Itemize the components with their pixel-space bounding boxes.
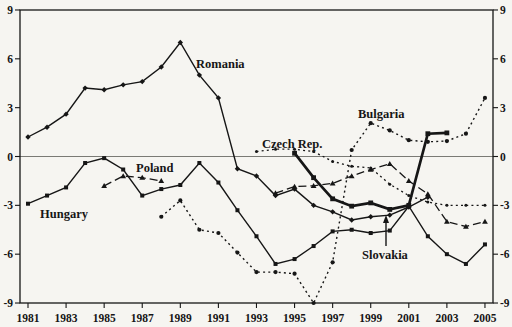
marker-square xyxy=(140,194,144,198)
marker-dot xyxy=(483,96,487,100)
marker-dot xyxy=(254,270,258,274)
marker-square xyxy=(311,175,316,180)
x-axis-tick-label: 2005 xyxy=(473,312,496,324)
marker-square xyxy=(445,252,449,256)
marker-dot xyxy=(255,150,258,153)
line-chart-figure: 99663300-3-3-6-6-9-919811983198519871989… xyxy=(0,0,512,327)
marker-square xyxy=(406,203,411,208)
marker-dot xyxy=(235,250,239,254)
x-axis-tick-label: 1995 xyxy=(283,312,306,324)
marker-triangle xyxy=(120,173,126,178)
marker-diamond xyxy=(368,214,373,219)
marker-diamond xyxy=(387,212,392,217)
marker-dot xyxy=(464,132,468,136)
marker-square xyxy=(254,234,258,238)
marker-diamond xyxy=(330,209,335,214)
marker-dot xyxy=(388,128,392,132)
y-axis-tick-label: 6 xyxy=(500,53,506,65)
marker-square xyxy=(197,161,201,165)
marker-diamond xyxy=(349,217,354,222)
marker-dot xyxy=(178,198,182,202)
marker-dot xyxy=(350,165,353,168)
x-axis-tick-label: 1987 xyxy=(131,312,154,324)
marker-square xyxy=(444,130,449,135)
series-line-poland xyxy=(104,176,161,186)
series-line-czech-rep xyxy=(257,149,486,205)
marker-dot xyxy=(464,204,467,207)
marker-diamond xyxy=(235,166,240,171)
marker-square xyxy=(159,187,163,191)
marker-diamond xyxy=(121,82,126,87)
series-label-poland: Poland xyxy=(136,161,174,175)
marker-diamond xyxy=(25,134,30,139)
marker-dot xyxy=(159,215,163,219)
marker-dot xyxy=(445,139,449,143)
x-axis-tick-label: 1999 xyxy=(359,312,382,324)
y-axis-tick-label: 9 xyxy=(7,4,13,16)
marker-dot xyxy=(197,228,201,232)
marker-triangle xyxy=(387,161,393,166)
marker-square xyxy=(274,262,278,266)
x-axis-tick-label: 1989 xyxy=(169,312,192,324)
marker-square xyxy=(369,231,373,235)
marker-square xyxy=(387,207,392,212)
marker-dot xyxy=(292,272,296,276)
y-axis-tick-label: -6 xyxy=(500,248,510,260)
x-axis-tick-label: 1985 xyxy=(93,312,116,324)
series-label-bulgaria: Bulgaria xyxy=(358,107,405,121)
y-axis-tick-label: 0 xyxy=(7,151,13,163)
y-axis-tick-label: 3 xyxy=(7,102,13,114)
x-axis-tick-label: 2003 xyxy=(435,312,458,324)
marker-square xyxy=(312,244,316,248)
y-axis-tick-label: 6 xyxy=(7,53,13,65)
marker-triangle xyxy=(158,178,164,183)
marker-square xyxy=(331,229,335,233)
y-axis-tick-label: -3 xyxy=(3,199,13,211)
marker-dot xyxy=(388,183,391,186)
marker-square xyxy=(178,183,182,187)
marker-triangle xyxy=(482,219,488,224)
series-line-poland xyxy=(276,164,486,227)
marker-dot xyxy=(350,148,354,152)
marker-dot xyxy=(312,301,316,305)
marker-diamond xyxy=(101,87,106,92)
marker-square xyxy=(368,200,373,205)
y-axis-tick-label: -3 xyxy=(500,199,510,211)
marker-square xyxy=(388,229,392,233)
chart-svg: 99663300-3-3-6-6-9-919811983198519871989… xyxy=(0,0,512,327)
x-axis-tick-label: 1993 xyxy=(245,312,268,324)
marker-square xyxy=(425,131,430,136)
x-axis-tick-label: 2001 xyxy=(397,312,420,324)
marker-triangle xyxy=(406,178,412,183)
marker-dot xyxy=(407,138,411,142)
marker-square xyxy=(483,242,487,246)
marker-square xyxy=(426,234,430,238)
series-label-slovakia: Slovakia xyxy=(362,248,409,262)
marker-square xyxy=(235,208,239,212)
x-axis-tick-label: 1997 xyxy=(321,312,344,324)
marker-square xyxy=(216,181,220,185)
y-axis-tick-label: 0 xyxy=(500,151,506,163)
series-label-hungary: Hungary xyxy=(40,207,89,221)
marker-square xyxy=(330,196,335,201)
marker-dot xyxy=(483,204,486,207)
marker-square xyxy=(464,262,468,266)
marker-square xyxy=(64,185,68,189)
y-axis-tick-label: 9 xyxy=(500,4,506,16)
marker-dot xyxy=(331,160,334,163)
y-axis-tick-label: 3 xyxy=(500,102,506,114)
marker-square xyxy=(102,156,106,160)
marker-square xyxy=(292,151,297,156)
series-label-czech-rep: Czech Rep. xyxy=(262,137,322,151)
x-axis-tick-label: 1991 xyxy=(207,312,230,324)
marker-dot xyxy=(273,270,277,274)
series-label-romania: Romania xyxy=(196,57,245,71)
marker-square xyxy=(350,228,354,232)
marker-square xyxy=(293,257,297,261)
marker-dot xyxy=(331,260,335,264)
series-line-bulgaria xyxy=(161,98,485,303)
marker-square xyxy=(349,204,354,209)
x-axis-tick-label: 1983 xyxy=(55,312,78,324)
marker-dot xyxy=(426,201,429,204)
y-axis-tick-label: -9 xyxy=(3,297,13,309)
